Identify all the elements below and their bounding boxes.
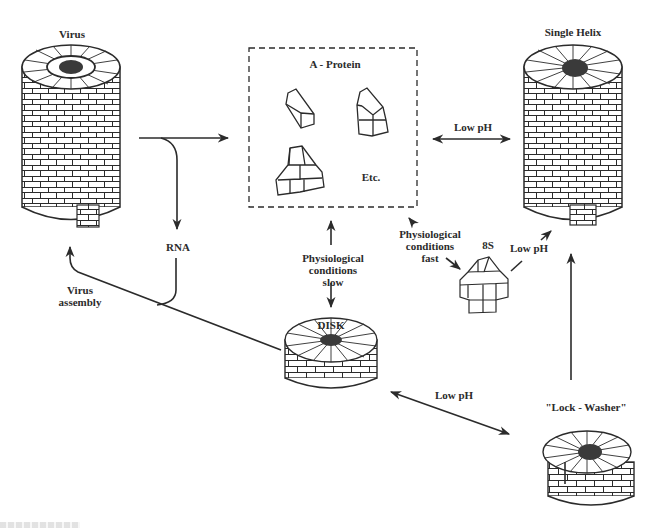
label-virus-assembly: Virus assembly [50,284,110,308]
label-rna: RNA [158,241,198,253]
label-etc: Etc. [354,171,388,183]
label-single-helix: Single Helix [533,26,613,38]
label-low-ph-bottom: Low pH [430,389,478,401]
a-protein-box [249,48,417,207]
virus-cylinder [22,45,120,227]
label-virus: Virus [50,28,94,40]
protein-subunit-stack [357,88,388,136]
label-8s: 8S [476,239,500,251]
cropped-caption-fragment [0,522,80,528]
label-physiological-slow: Physiological conditions slow [291,252,375,288]
label-disk: DISK [311,319,351,331]
label-physiological-fast: Physiological conditions fast [388,228,472,264]
label-low-ph-top: Low pH [443,121,503,133]
label-a-protein: A - Protein [295,58,375,70]
protein-subunit-wedge [286,89,314,128]
protein-subunit-arc [276,146,324,195]
label-lock-washer: "Lock - Washer" [536,401,636,413]
lock-washer-aggregate [543,431,634,505]
label-low-ph-8s: Low pH [505,242,553,254]
8s-aggregate [460,257,508,313]
single-helix-cylinder [524,45,622,225]
